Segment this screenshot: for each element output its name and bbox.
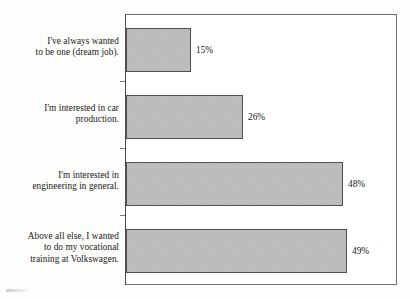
axis-tick-1 (120, 81, 125, 82)
category-label: Above all else, I wanted to do my vocati… (3, 231, 119, 265)
bar-row: I've always wanted to be one (dream job)… (0, 28, 410, 72)
bar-segment[interactable] (126, 162, 343, 206)
bar-value-label: 26% (248, 112, 265, 122)
bar-value-label: 48% (348, 179, 365, 189)
bar-segment[interactable] (126, 229, 347, 273)
category-label-line: I'm interested in car (3, 103, 119, 114)
bar-container: 48% (126, 162, 343, 206)
bar-row: Above all else, I wanted to do my vocati… (0, 229, 410, 273)
category-label-line: training at Volkswagen. (3, 254, 119, 265)
bar-segment[interactable] (126, 28, 191, 72)
axis-tick-3 (120, 215, 125, 216)
category-label-line: engineering in general. (3, 181, 119, 192)
axis-tick-2 (120, 148, 125, 149)
bar-container: 26% (126, 95, 243, 139)
category-label: I'm interested in car production. (3, 103, 119, 126)
category-label-line: production. (3, 114, 119, 125)
bar-container: 49% (126, 229, 347, 273)
category-label: I'm interested in engineering in general… (3, 170, 119, 193)
bar-chart-figure: I've always wanted to be one (dream job)… (0, 0, 410, 299)
category-label-line: I'm interested in (3, 170, 119, 181)
category-label-line: I've always wanted (3, 36, 119, 47)
category-label: I've always wanted to be one (dream job)… (3, 36, 119, 59)
bar-row: I'm interested in car production. 26% (0, 95, 410, 139)
bar-value-label: 15% (196, 45, 213, 55)
bar-row: I'm interested in engineering in general… (0, 162, 410, 206)
bar-value-label: 49% (352, 246, 369, 256)
category-label-line: to do my vocational (3, 242, 119, 253)
category-label-line: to be one (dream job). (3, 47, 119, 58)
scan-artifact (6, 289, 28, 292)
category-label-line: Above all else, I wanted (3, 231, 119, 242)
bar-container: 15% (126, 28, 191, 72)
bar-segment[interactable] (126, 95, 243, 139)
